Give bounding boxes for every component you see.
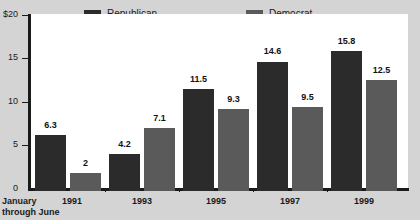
y-tick-label-15: 15: [8, 53, 18, 62]
bar-value-democrat-1995: 9.3: [218, 95, 249, 104]
bar-value-republican-1993: 4.2: [109, 140, 140, 149]
bar-democrat-1991: [70, 173, 101, 191]
bar-republican-1997: [257, 62, 288, 191]
y-tick-label-0: 0: [13, 184, 18, 193]
bar-value-republican-1997: 14.6: [257, 47, 288, 56]
bar-democrat-1997: [292, 107, 323, 191]
x-tick-mark-1991-1993: [105, 188, 106, 192]
bar-republican-1991: [35, 135, 66, 191]
bar-democrat-1999: [366, 80, 397, 191]
bar-republican-1993: [109, 154, 140, 191]
x-tick-label-1995: 1995: [196, 196, 236, 206]
y-tick-mark-15: [22, 58, 28, 59]
bar-value-democrat-1999: 12.5: [366, 66, 397, 75]
x-axis-note-line2: through June: [2, 207, 60, 218]
bar-value-republican-1991: 6.3: [35, 121, 66, 130]
bar-value-republican-1995: 11.5: [183, 75, 214, 84]
y-tick-label-5: 5: [13, 140, 18, 149]
x-tick-label-1997: 1997: [270, 196, 310, 206]
bar-value-republican-1999: 15.8: [331, 37, 362, 46]
x-tick-mark-1993-1995: [179, 188, 180, 192]
bar-value-democrat-1991: 2: [70, 159, 101, 168]
x-axis-note: January through June: [2, 196, 60, 218]
x-tick-label-1999: 1999: [344, 196, 384, 206]
bar-value-democrat-1993: 7.1: [144, 114, 175, 123]
bar-chart: Republican Democrat $20 15 10 5 0 6.3 2 …: [0, 0, 420, 220]
y-tick-label-10: 10: [8, 97, 18, 106]
x-tick-label-1993: 1993: [122, 196, 162, 206]
bar-democrat-1993: [144, 128, 175, 191]
bar-democrat-1995: [218, 109, 249, 191]
bar-republican-1995: [183, 89, 214, 191]
y-tick-label-20: $20: [3, 10, 18, 19]
x-tick-mark-1995-1997: [253, 188, 254, 192]
y-tick-mark-20: [22, 15, 28, 16]
x-axis-note-line1: January: [2, 196, 60, 207]
y-tick-mark-5: [22, 145, 28, 146]
y-tick-mark-10: [22, 102, 28, 103]
bar-value-democrat-1997: 9.5: [292, 93, 323, 102]
x-tick-mark-1997-1999: [327, 188, 328, 192]
bar-republican-1999: [331, 51, 362, 191]
